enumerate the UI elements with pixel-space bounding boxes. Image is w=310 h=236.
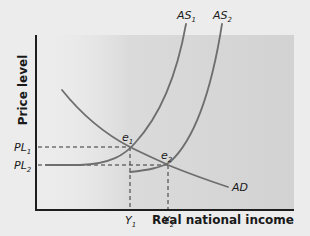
y-axis-label: Price level bbox=[16, 55, 30, 126]
shaded-region bbox=[40, 35, 294, 210]
ad-label: AD bbox=[231, 181, 248, 194]
ad-as-diagram: Price level Real national income PL1 PL2… bbox=[0, 0, 310, 236]
